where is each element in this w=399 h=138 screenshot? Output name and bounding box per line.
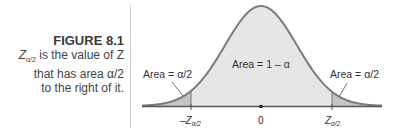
right-leader-line xyxy=(339,83,347,97)
right-area-label: Area = α/2 xyxy=(330,68,379,80)
normal-distribution-diagram: Area = α/2 Area = 1 – α Area = α/2 –Zα/2… xyxy=(0,0,399,138)
neg-z-symbol: –Z xyxy=(179,115,193,126)
pos-z-subscript: α/2 xyxy=(331,120,341,127)
center-area-fill xyxy=(191,6,332,106)
left-area-label: Area = α/2 xyxy=(143,68,192,80)
tick-label-zero: 0 xyxy=(258,115,264,126)
left-leader-line xyxy=(172,82,183,96)
center-area-label: Area = 1 – α xyxy=(232,58,290,70)
tick-center xyxy=(259,105,263,109)
tick-label-neg-z: –Zα/2 xyxy=(179,115,201,127)
tick-label-pos-z: Zα/2 xyxy=(324,115,341,127)
neg-z-subscript: α/2 xyxy=(192,120,202,127)
